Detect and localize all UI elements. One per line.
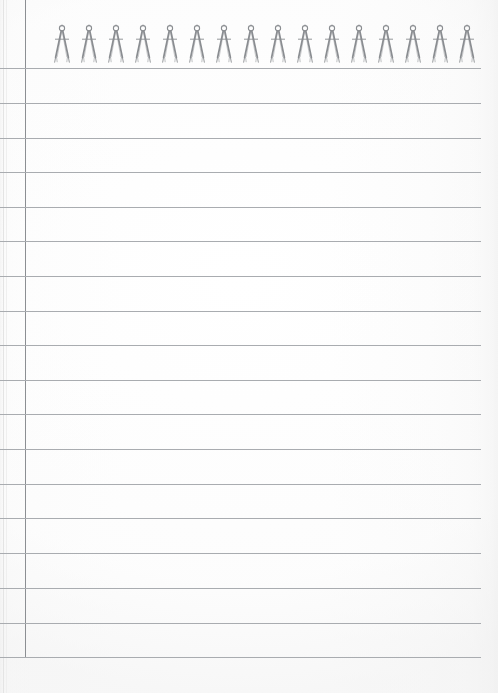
- drafting-compass-icon: [159, 24, 181, 64]
- drafting-compass-icon: [213, 24, 235, 64]
- ruled-line: [0, 414, 481, 415]
- drafting-compass-icon: [267, 24, 289, 64]
- ruled-line: [0, 380, 481, 381]
- ruled-line: [0, 518, 481, 519]
- drafting-compass-icon: [348, 24, 370, 64]
- ruled-line: [0, 657, 481, 658]
- drafting-compass-icon: [240, 24, 262, 64]
- drafting-compass-icon: [51, 24, 73, 64]
- ruled-line: [0, 241, 481, 242]
- margin-rule: [25, 0, 26, 657]
- drafting-compass-icon: [186, 24, 208, 64]
- drafting-compass-icon: [456, 24, 478, 64]
- ruled-line: [0, 449, 481, 450]
- ruled-line: [0, 207, 481, 208]
- ruled-line: [0, 103, 481, 104]
- drafting-compass-icon: [78, 24, 100, 64]
- ruled-line: [0, 172, 481, 173]
- drafting-compass-icon: [321, 24, 343, 64]
- ruled-line: [0, 588, 481, 589]
- ruled-line: [0, 311, 481, 312]
- ruled-line: [0, 68, 481, 69]
- notepad-page: [0, 0, 498, 693]
- drafting-compass-icon: [429, 24, 451, 64]
- ruled-line: [0, 553, 481, 554]
- ruled-line: [0, 276, 481, 277]
- drafting-compass-icon: [402, 24, 424, 64]
- ruled-line: [0, 623, 481, 624]
- ruled-line: [0, 484, 481, 485]
- ruled-line: [0, 138, 481, 139]
- ruled-line: [0, 345, 481, 346]
- drafting-compass-icon: [375, 24, 397, 64]
- drafting-compass-icon: [294, 24, 316, 64]
- drafting-compass-icon: [105, 24, 127, 64]
- drafting-compass-icon: [132, 24, 154, 64]
- spiral-binding: [0, 0, 498, 68]
